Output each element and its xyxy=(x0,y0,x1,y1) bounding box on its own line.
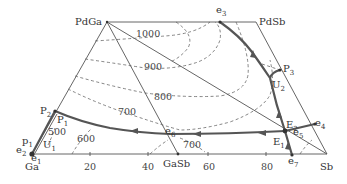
point-gasb xyxy=(177,153,180,156)
isotherm-1000b xyxy=(170,22,190,62)
label-pdga: PdGa xyxy=(75,16,102,27)
point-p3 xyxy=(278,68,281,71)
isotherm-sb xyxy=(300,140,312,154)
point-p2 xyxy=(53,109,56,112)
point-e3 xyxy=(218,20,221,23)
isotherm-label-1000: 1000 xyxy=(136,28,160,39)
tick-20: 20 xyxy=(84,161,96,172)
isotherm-label-800: 800 xyxy=(154,91,172,102)
label-e7: e7 xyxy=(288,155,298,169)
point-labels: e3 P3 U2 E2 e4 e5 E1 e7 e6 P2 P1 U1 p1 e… xyxy=(16,4,326,169)
label-p1: p1 xyxy=(22,135,33,149)
label-e6: e6 xyxy=(165,125,176,139)
label-pdsb: PdSb xyxy=(259,16,285,27)
label-gasb: GaSb xyxy=(163,158,190,169)
isotherm-label-600: 600 xyxy=(77,133,95,144)
arrow-icon xyxy=(193,131,201,137)
label-u1: U1 xyxy=(43,139,56,153)
curve-p3-u2 xyxy=(270,70,280,78)
edge-pdsb-sb xyxy=(256,22,327,154)
ternary-diagram: 20 40 60 80 xyxy=(0,0,347,184)
arrow-icon xyxy=(130,128,138,134)
isotherm-label-700b: 700 xyxy=(183,139,201,150)
isotherm-label-900: 900 xyxy=(144,61,162,72)
isotherm-700c xyxy=(150,140,168,154)
label-sb: Sb xyxy=(320,161,333,172)
tick-80: 80 xyxy=(261,161,273,172)
label-e4: e4 xyxy=(315,117,326,131)
curve-e3-u2 xyxy=(220,22,270,78)
point-pdga xyxy=(106,21,108,23)
label-e3: e3 xyxy=(216,4,226,18)
label-e2: e2 xyxy=(16,144,26,158)
label-p2: P2 xyxy=(40,105,51,119)
tick-40: 40 xyxy=(142,161,154,172)
arrow-icon xyxy=(258,130,266,136)
curve-e-e7 xyxy=(285,131,292,155)
arrow-icon xyxy=(276,110,282,118)
isotherm-label-700: 700 xyxy=(118,106,136,117)
tick-60: 60 xyxy=(203,161,215,172)
label-e1-cap: E1 xyxy=(273,136,285,150)
